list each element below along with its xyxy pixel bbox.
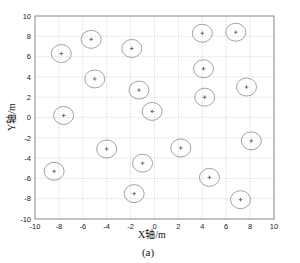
- plus-marker-icon: [179, 146, 183, 150]
- plus-marker-icon: [62, 114, 66, 118]
- plus-marker-icon: [249, 139, 253, 143]
- y-tick-label: -6: [24, 174, 31, 183]
- x-tick-label: -4: [103, 222, 110, 231]
- plus-marker-icon: [141, 161, 145, 165]
- x-tick-label: -10: [30, 222, 41, 231]
- x-tick-label: -8: [56, 222, 63, 231]
- grid-lines: [35, 16, 274, 219]
- data-point: [44, 162, 64, 180]
- plus-marker-icon: [105, 147, 109, 151]
- plus-marker-icon: [201, 31, 205, 35]
- data-point: [97, 140, 117, 158]
- plus-marker-icon: [203, 95, 207, 99]
- plus-marker-icon: [52, 169, 56, 173]
- x-tick-label: 8: [248, 222, 252, 231]
- y-tick-label: 4: [27, 73, 31, 82]
- x-tick-label: 10: [270, 222, 278, 231]
- plus-marker-icon: [93, 77, 97, 81]
- plus-marker-icon: [150, 110, 154, 114]
- data-point: [122, 39, 142, 57]
- data-point: [133, 154, 153, 172]
- y-axis-label: Y轴/m: [5, 103, 17, 131]
- x-axis-label: X轴/m: [138, 228, 166, 240]
- data-point: [199, 168, 219, 186]
- figure-caption: (a): [142, 246, 155, 259]
- plus-marker-icon: [132, 192, 136, 196]
- data-point: [124, 185, 144, 203]
- data-point: [51, 45, 71, 63]
- y-tick-label: 10: [23, 12, 31, 21]
- data-point: [231, 191, 251, 209]
- scatter-chart: -10-8-6-4-20246810 -10-8-6-4-20246810 X轴…: [0, 0, 300, 263]
- data-point: [226, 23, 246, 41]
- y-tick-label: -4: [24, 154, 31, 163]
- x-tick-label: 2: [176, 222, 180, 231]
- y-tick-label: 2: [27, 93, 31, 102]
- plus-marker-icon: [234, 30, 238, 34]
- plus-marker-icon: [89, 38, 93, 42]
- plus-marker-icon: [137, 88, 141, 92]
- data-point: [81, 30, 101, 48]
- x-tick-label: 4: [200, 222, 204, 231]
- data-point: [129, 81, 149, 99]
- y-tick-label: -8: [24, 194, 31, 203]
- y-tick-label: 6: [27, 52, 31, 61]
- y-tick-label: -10: [20, 215, 31, 224]
- x-tick-label: 6: [224, 222, 228, 231]
- plus-marker-icon: [245, 85, 249, 89]
- plus-marker-icon: [59, 52, 63, 56]
- data-point: [241, 132, 261, 150]
- data-point: [237, 78, 257, 96]
- data-point: [171, 139, 191, 157]
- data-point: [193, 60, 213, 78]
- x-tick-label: -2: [127, 222, 134, 231]
- y-tick-labels: -10-8-6-4-20246810: [20, 12, 31, 224]
- data-point: [85, 70, 105, 88]
- y-tick-label: -2: [24, 134, 31, 143]
- data-point: [54, 106, 74, 124]
- x-tick-label: -6: [79, 222, 86, 231]
- data-points: [44, 23, 261, 208]
- y-tick-label: 0: [27, 113, 31, 122]
- y-tick-label: 8: [27, 32, 31, 41]
- plus-marker-icon: [239, 198, 243, 202]
